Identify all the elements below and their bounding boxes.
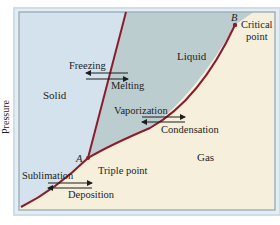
critical-point-label-line2: point [246,31,268,42]
liquid-label: Liquid [177,50,207,62]
melting-label: Melting [111,80,145,91]
point-a-label: A [75,153,83,164]
gas-label: Gas [197,151,214,163]
triple-point-label: Triple point [98,165,148,176]
triple-point-marker [86,156,90,160]
deposition-label: Deposition [68,189,115,200]
critical-point-marker [233,23,237,27]
y-axis-label: Pressure [0,100,11,134]
phase-diagram: Pressure Solid Liquid Gas Freezing Melti… [0,0,280,225]
critical-point-label-line1: Critical [241,19,273,30]
solid-label: Solid [43,89,67,101]
sublimation-label: Sublimation [22,170,74,181]
condensation-label: Condensation [161,124,219,135]
vaporization-label: Vaporization [114,105,168,116]
point-b-label: B [231,12,238,23]
freezing-label: Freezing [69,60,106,71]
